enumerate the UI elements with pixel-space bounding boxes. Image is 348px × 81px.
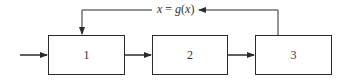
- block-1: 1: [48, 35, 125, 75]
- feedback-label-close: ): [190, 2, 194, 16]
- feedback-arrow-left-segment: [82, 10, 152, 34]
- feedback-arrow-right-segment: [199, 10, 278, 36]
- block-3: 3: [255, 35, 332, 75]
- block-3-label: 3: [291, 48, 297, 63]
- feedback-label: x = g(x): [157, 2, 194, 17]
- feedback-label-eq: =: [162, 2, 175, 16]
- block-1-label: 1: [84, 48, 90, 63]
- block-2: 2: [152, 35, 228, 75]
- block-diagram: 1 2 3 x = g(x): [0, 0, 348, 81]
- block-2-label: 2: [187, 48, 193, 63]
